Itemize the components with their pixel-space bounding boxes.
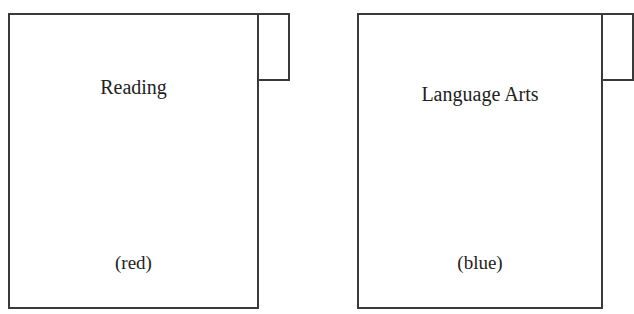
- folder-color-note: (red): [10, 252, 257, 274]
- folder-color-note: (blue): [359, 252, 601, 274]
- folder-tab-language-arts: [603, 13, 634, 81]
- folder-tab-reading: [259, 13, 290, 81]
- folder-label: Reading: [10, 76, 257, 99]
- folder-label: Language Arts: [359, 83, 601, 106]
- folder-reading: Reading (red): [8, 13, 259, 309]
- folder-language-arts: Language Arts (blue): [357, 13, 603, 309]
